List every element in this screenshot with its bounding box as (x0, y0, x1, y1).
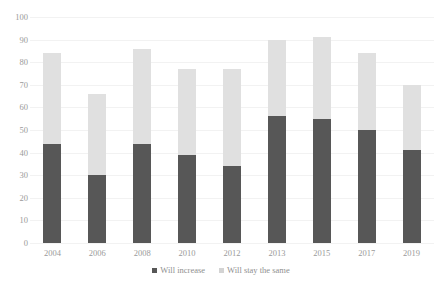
stacked-bar-chart: 0102030405060708090100 20042006200820102… (0, 0, 442, 285)
bar-segment-will-stay-the-same (358, 53, 376, 130)
bar-segment-will-increase (268, 116, 286, 243)
y-axis-label-20: 20 (6, 194, 28, 203)
bar-segment-will-stay-the-same (88, 94, 106, 175)
gridline-90 (30, 40, 434, 41)
x-axis-label-2012: 2012 (209, 249, 255, 258)
y-axis-label-50: 50 (6, 126, 28, 135)
y-axis-label-70: 70 (6, 81, 28, 90)
y-axis-label-30: 30 (6, 171, 28, 180)
gridline-0 (30, 243, 434, 244)
y-axis-label-40: 40 (6, 148, 28, 157)
bar-segment-will-stay-the-same (403, 85, 421, 151)
legend-label: Will stay the same (227, 266, 290, 275)
y-axis-label-90: 90 (6, 35, 28, 44)
bar-segment-will-stay-the-same (43, 53, 61, 143)
bar-segment-will-increase (88, 175, 106, 243)
gridline-100 (30, 17, 434, 18)
legend-item[interactable]: Will increase (152, 266, 205, 275)
bar-segment-will-increase (43, 144, 61, 243)
y-axis-label-60: 60 (6, 103, 28, 112)
x-axis-label-2013: 2013 (254, 249, 300, 258)
bar-segment-will-stay-the-same (268, 40, 286, 117)
chart-legend: Will increaseWill stay the same (0, 266, 442, 275)
legend-label: Will increase (160, 266, 205, 275)
bar-segment-will-stay-the-same (133, 49, 151, 144)
x-axis-label-2010: 2010 (164, 249, 210, 258)
bar-segment-will-increase (358, 130, 376, 243)
x-axis-label-2008: 2008 (119, 249, 165, 258)
x-axis-label-2019: 2019 (389, 249, 435, 258)
bar-segment-will-increase (223, 166, 241, 243)
plot-area (30, 17, 434, 243)
bar-segment-will-stay-the-same (223, 69, 241, 166)
bar-segment-will-stay-the-same (313, 37, 331, 118)
bar-segment-will-increase (178, 155, 196, 243)
y-axis-label-10: 10 (6, 216, 28, 225)
bar-segment-will-increase (133, 144, 151, 243)
y-axis-label-80: 80 (6, 58, 28, 67)
bar-segment-will-increase (403, 150, 421, 243)
legend-swatch-icon (219, 268, 224, 273)
x-axis-label-2006: 2006 (74, 249, 120, 258)
legend-item[interactable]: Will stay the same (219, 266, 290, 275)
x-axis-label-2015: 2015 (299, 249, 345, 258)
legend-swatch-icon (152, 268, 157, 273)
y-axis-label-0: 0 (6, 239, 28, 248)
bar-segment-will-increase (313, 119, 331, 243)
x-axis-label-2004: 2004 (29, 249, 75, 258)
bar-segment-will-stay-the-same (178, 69, 196, 155)
y-axis-label-100: 100 (6, 13, 28, 22)
x-axis-label-2017: 2017 (344, 249, 390, 258)
